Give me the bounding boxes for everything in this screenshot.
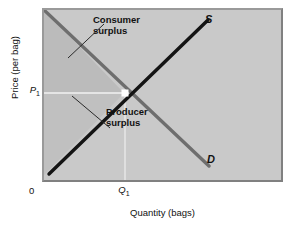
quantity-tick-label: Q1 (112, 184, 136, 197)
quantity-tick-subscript: 1 (126, 190, 130, 197)
consumer-surplus-label-line1: Consumer (93, 14, 140, 25)
x-axis-title: Quantity (bags) (42, 207, 283, 218)
plot-svg (44, 10, 281, 180)
consumer-surplus-label-line2: surplus (93, 25, 140, 36)
producer-surplus-label-line2: surplus (106, 117, 148, 128)
supply-curve-label: S (205, 13, 212, 25)
origin-tick-label: 0 (29, 185, 34, 196)
equilibrium-point-marker (122, 90, 129, 97)
consumer-surplus-label: Consumer surplus (93, 14, 140, 36)
producer-surplus-label-line1: Producer (106, 106, 148, 117)
price-tick-subscript: 1 (36, 90, 40, 97)
supply-demand-figure: S D Consumer surplus Producer surplus 0 … (0, 0, 294, 226)
plot-inner (44, 10, 281, 180)
producer-surplus-label: Producer surplus (106, 106, 148, 128)
quantity-tick-letter: Q (118, 184, 125, 195)
y-axis-title: Price (per bag) (9, 8, 20, 128)
price-tick-label: P1 (24, 84, 40, 97)
plot-area (42, 8, 283, 182)
demand-curve-label: D (207, 153, 215, 165)
